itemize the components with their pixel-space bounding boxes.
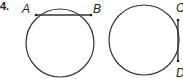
point-a-dot	[35, 14, 38, 17]
figure-circle-ab: A B	[21, 2, 101, 77]
label-d: D	[176, 66, 183, 79]
diagram: 4. A B C D	[0, 0, 183, 79]
figure-circle-cd: C D	[109, 1, 183, 79]
label-c: C	[176, 1, 183, 15]
point-b-dot	[90, 14, 93, 17]
point-d-dot	[177, 60, 180, 63]
problem-number: 4.	[0, 0, 9, 12]
label-a: A	[21, 2, 30, 16]
circle-2	[109, 5, 179, 75]
circle-1	[26, 9, 94, 77]
label-b: B	[93, 2, 101, 16]
point-c-dot	[177, 19, 180, 22]
